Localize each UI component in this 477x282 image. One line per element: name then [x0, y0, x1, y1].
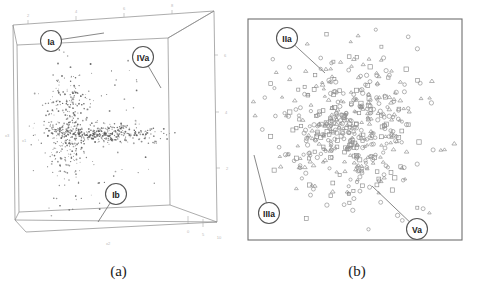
- tick-left-1: x3: [5, 133, 10, 138]
- panel-a-plot: 2 4 6 8 6 4 2 0 5 10 x3 x1 x2 IaIVaIb: [0, 0, 237, 250]
- callout-label-ia: Ia: [47, 37, 54, 47]
- point-cloud-3d: [29, 49, 176, 216]
- tick-right-1: 6: [224, 53, 227, 58]
- callout-leader-line: [148, 66, 161, 88]
- callout-label-ib: Ib: [112, 190, 120, 200]
- tick-top-4: 8: [171, 3, 174, 8]
- tick-bottom-1: 0: [187, 229, 190, 234]
- panel-a: 2 4 6 8 6 4 2 0 5 10 x3 x1 x2 IaIVaIb (a…: [0, 0, 237, 282]
- callout-label-iiia: IIIa: [263, 209, 275, 219]
- callout-leader-line: [98, 203, 110, 222]
- tick-right-3: 2: [226, 166, 229, 171]
- callout-group-a: IaIVaIb: [41, 31, 162, 223]
- plot-frame: [248, 19, 462, 240]
- 3d-axis-tick-labels: 2 4 6 8 6 4 2 0 5 10 x3 x1 x2: [5, 3, 229, 246]
- panel-b-plot: IIaIIIaVa: [237, 0, 477, 250]
- tick-top-3: 6: [123, 6, 126, 11]
- callout-label-iva: IVa: [137, 53, 150, 63]
- tick-right-2: 4: [225, 110, 228, 115]
- callout-leader-line: [254, 155, 266, 203]
- tick-left-2: x1: [22, 138, 27, 143]
- callout-leader-line: [61, 33, 104, 39]
- figure-two-panel-scatter: 2 4 6 8 6 4 2 0 5 10 x3 x1 x2 IaIVaIb (a…: [0, 0, 477, 282]
- callout-leader-line: [372, 186, 409, 222]
- panel-a-caption: (a): [0, 263, 237, 280]
- callout-label-iia: IIa: [282, 34, 292, 44]
- tick-bottom-3: 10: [217, 235, 222, 240]
- callout-label-va: Va: [412, 225, 422, 235]
- tick-top-2: 4: [75, 9, 78, 14]
- tick-bottom-2: 5: [202, 232, 205, 237]
- callout-leader-line: [295, 45, 325, 73]
- panel-b-caption: (b): [237, 263, 477, 280]
- axis-label-bottom: x2: [106, 241, 111, 246]
- point-cloud-2d: [251, 28, 456, 231]
- panel-b: IIaIIIaVa (b): [237, 0, 477, 282]
- tick-top-1: 2: [27, 13, 30, 18]
